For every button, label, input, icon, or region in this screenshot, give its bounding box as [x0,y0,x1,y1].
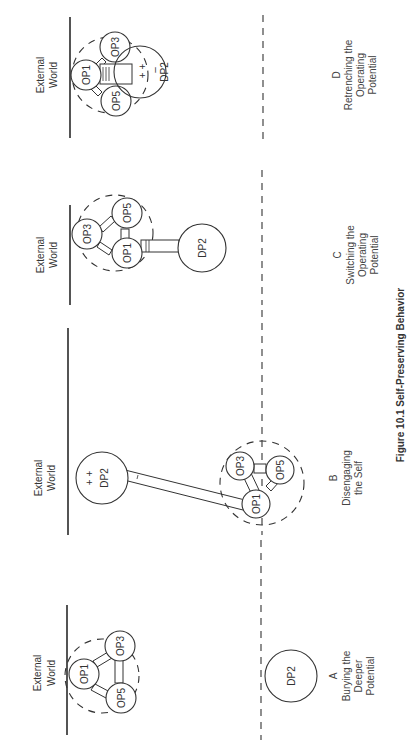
caption-c: C Switching the Operating Potential [332,225,380,285]
node-op1: OP1 [69,659,99,689]
node-op5: OP5 [106,683,136,713]
svg-text:DP2: DP2 [99,468,110,488]
svg-text:OP5: OP5 [275,460,286,480]
svg-text:Potential: Potential [367,56,378,95]
node-op3: OP3 [226,452,254,480]
svg-text:Operating: Operating [355,53,366,97]
figure-title: Figure 10.1 Self-Preserving Behavior [395,288,406,463]
caption-d: D Retrenching the Operating Potential [331,39,378,110]
svg-text:the Self: the Self [353,461,364,495]
node-op1: OP1 [71,60,101,90]
panel-b: External World + + DP2 OP1 OP3 [33,310,364,535]
svg-text:DP2: DP2 [197,238,208,258]
node-op5: OP5 [101,86,131,116]
external-world-label: External [35,57,46,94]
figure-canvas: External World OP1 OP3 OP5 DP2 A Buryi [0,0,419,740]
external-world-label: External [35,237,46,274]
svg-text:OP3: OP3 [115,636,126,656]
node-op1: OP1 [112,238,142,268]
external-world-label: World [48,242,59,268]
svg-text:A: A [328,672,339,679]
svg-text:Retrenching the: Retrenching the [343,39,354,110]
svg-text:+ +: + + [137,64,148,79]
svg-text:Operating: Operating [357,233,368,277]
svg-text:OP1: OP1 [122,243,133,263]
node-op5: OP5 [266,456,294,484]
svg-text:Burying the: Burying the [341,650,352,701]
node-op5: OP5 [112,198,142,228]
external-world-label: World [48,62,59,88]
node-op1: OP1 [242,490,270,518]
node-dp2: DP2 [178,224,226,272]
caption-b: B Disengaging the Self [328,450,364,506]
svg-text:DP2: DP2 [159,62,170,82]
node-dp2: DP2 [265,650,317,702]
svg-text:Deeper: Deeper [353,659,364,692]
connector [120,469,245,510]
svg-text:OP3: OP3 [235,456,246,476]
svg-text:OP3: OP3 [110,37,121,57]
svg-text:DP2: DP2 [286,666,297,686]
svg-text:OP1: OP1 [251,494,262,514]
panel-d: External World OP1 OP3 OP5 + + – DP2 [35,15,378,140]
caption-a: A Burying the Deeper Potential [328,650,376,701]
external-world-label: External [33,460,44,497]
panel-c: External World OP3 OP5 OP1 DP2 [35,170,380,305]
svg-text:+ +: + + [84,471,95,486]
node-op3: OP3 [72,219,102,249]
node-dp2: + + DP2 [76,452,128,504]
svg-text:OP3: OP3 [82,224,93,244]
node-op3: OP3 [100,32,130,62]
svg-text:OP1: OP1 [79,664,90,684]
svg-text:Switching the: Switching the [345,225,356,285]
svg-text:Disengaging: Disengaging [341,450,352,506]
svg-text:C: C [332,251,343,258]
svg-text:OP5: OP5 [111,91,122,111]
external-world-label: World [46,465,57,491]
svg-text:OP5: OP5 [116,688,127,708]
svg-text:Potential: Potential [369,236,380,275]
svg-text:OP1: OP1 [81,65,92,85]
svg-text:OP5: OP5 [122,203,133,223]
external-world-label: World [46,660,57,686]
svg-text:B: B [328,474,339,481]
svg-text:D: D [331,71,342,78]
panel-a: External World OP1 OP3 OP5 DP2 A Buryi [32,540,376,740]
svg-text:Potential: Potential [365,657,376,696]
external-world-label: External [32,655,43,692]
node-op3: OP3 [105,631,135,661]
